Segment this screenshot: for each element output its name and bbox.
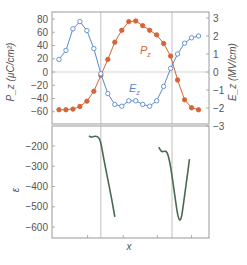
left-tick-label: 40	[37, 40, 49, 51]
ez-point	[196, 34, 200, 38]
pz-point	[78, 104, 82, 108]
right-tick-label: 3	[213, 13, 219, 24]
energy-curve-segment-2	[159, 147, 190, 220]
left-axis-title: P_z (μC/cm²)	[5, 43, 16, 102]
pz-series	[57, 19, 201, 112]
left-tick-label: −60	[31, 106, 48, 117]
pz-point	[106, 57, 110, 61]
bottom-plot-frame	[52, 126, 209, 238]
pz-series-label: Pz	[140, 44, 151, 58]
ez-series	[57, 19, 201, 108]
pz-point	[168, 54, 172, 58]
energy-curve-segment-1	[89, 136, 115, 217]
ez-point	[168, 66, 172, 70]
ez-point	[99, 72, 103, 76]
bottom-left-tick-label: −400	[25, 181, 48, 192]
bottom-left-tick-label: −200	[25, 141, 48, 152]
ez-point	[113, 102, 117, 106]
ez-point	[78, 19, 82, 23]
right-axis-title: E_z (MV/cm)	[227, 43, 238, 101]
bottom-x-axis-title: x	[126, 241, 133, 252]
right-tick-label: −3	[213, 121, 225, 132]
bottom-left-tick-label: −500	[25, 201, 48, 212]
pz-point	[189, 106, 193, 110]
left-tick-label: 80	[37, 14, 49, 25]
pz-point	[147, 28, 151, 32]
ez-point	[134, 99, 138, 103]
ez-point	[127, 99, 131, 103]
left-tick-label: −20	[31, 80, 48, 91]
ez-point	[175, 52, 179, 56]
bottom-y-axis-title: ε	[10, 187, 21, 192]
pz-point	[92, 89, 96, 93]
pz-point	[196, 108, 200, 112]
bottom-left-tick-label: −300	[25, 161, 48, 172]
left-axis-ticks: 806040200−20−40−60	[31, 14, 55, 118]
pz-point	[85, 99, 89, 103]
ez-point	[71, 27, 75, 31]
left-tick-label: 20	[37, 53, 49, 64]
pz-point	[127, 19, 131, 23]
pz-point	[64, 108, 68, 112]
left-tick-label: 0	[42, 67, 48, 78]
ez-point	[141, 102, 145, 106]
figure: 806040200−20−40−60 3210−1−2−3 Pz Ez P_z …	[0, 0, 247, 265]
bottom-left-axis-ticks: −200−300−400−500−600	[25, 141, 55, 233]
ez-point	[161, 84, 165, 88]
bottom-left-tick-label: −600	[25, 222, 48, 233]
ez-point	[57, 57, 61, 61]
ez-point	[92, 46, 96, 50]
pz-point	[175, 78, 179, 82]
ez-point	[147, 104, 151, 108]
ez-label-sub: z	[135, 89, 140, 96]
left-tick-label: −40	[31, 93, 48, 104]
ez-point	[106, 91, 110, 95]
right-tick-label: 2	[213, 31, 219, 42]
pz-point	[113, 40, 117, 44]
pz-point	[57, 108, 61, 112]
bottom-panel: −200−300−400−500−600 ε x	[10, 126, 209, 252]
ez-series-label: Ez	[129, 82, 140, 96]
left-tick-label: 60	[37, 27, 49, 38]
ez-point	[189, 36, 193, 40]
bottom-frame	[52, 126, 209, 238]
pz-point	[141, 23, 145, 27]
pz-line	[59, 21, 199, 110]
pz-point	[120, 28, 124, 32]
pz-point	[161, 41, 165, 45]
right-tick-label: −1	[213, 85, 225, 96]
ez-point	[85, 28, 89, 32]
pz-point	[71, 107, 75, 111]
ez-point	[154, 99, 158, 103]
energy-series	[89, 136, 189, 220]
ez-point	[120, 104, 124, 108]
pz-point	[182, 98, 186, 102]
right-tick-label: 1	[213, 49, 219, 60]
right-tick-label: 0	[213, 67, 219, 78]
pz-label-sub: z	[146, 51, 151, 58]
bottom-guides	[101, 126, 172, 238]
right-tick-label: −2	[213, 103, 225, 114]
pz-point	[134, 19, 138, 23]
top-panel: 806040200−20−40−60 3210−1−2−3 Pz Ez P_z …	[5, 12, 238, 132]
pz-point	[154, 33, 158, 37]
ez-point	[64, 48, 68, 52]
ez-point	[182, 41, 186, 45]
top-guides	[101, 12, 172, 124]
